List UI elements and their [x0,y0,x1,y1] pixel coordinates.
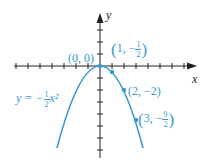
parabola-diagram: y x (0, 0) (1, −12) (2, −2) (3, −92) y =… [0,0,210,167]
point-label-origin: (0, 0) [68,52,94,64]
point-label-1: (1, −12) [111,40,147,59]
point-label-2: (2, −2) [128,85,161,97]
point-label-3: (3, −92) [138,110,174,129]
y-axis-label: y [106,9,111,21]
curve-equation-label: y = −12x² [16,90,58,109]
y-axis-arrow-icon [97,13,104,23]
graph-canvas [0,0,210,167]
point-1 [110,70,114,74]
x-axis-arrow-icon [187,63,197,70]
point-2 [122,88,126,92]
point-origin [98,64,102,68]
x-axis-label: x [192,73,197,85]
